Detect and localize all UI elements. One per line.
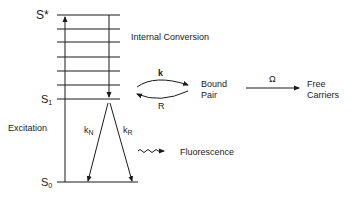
label-r: R [158,101,165,111]
energy-levels [57,15,138,182]
label-k: k [158,68,164,78]
energy-level-diagram: S* S1 S0 Excitation Internal Conversion … [0,0,355,197]
label-fluorescence: Fluorescence [180,147,234,157]
label-bound-pair-line1: Bound [201,79,227,89]
label-bound-pair-line2: Pair [201,90,217,100]
k-forward-arrow [137,80,188,87]
label-s1: S1 [41,93,52,106]
label-internal-conversion: Internal Conversion [131,32,209,42]
label-kr: kR [123,125,133,136]
label-excitation: Excitation [8,123,47,133]
fluorescence-wavy-arrow [138,150,164,153]
label-s0: S0 [41,176,52,189]
label-free-carriers-line1: Free [307,79,326,89]
label-kn: kN [84,125,94,136]
label-free-carriers-line2: Carriers [307,90,340,100]
kr-decay-arrow [110,103,132,181]
kn-decay-arrow [88,103,108,181]
r-reverse-arrow [137,91,188,98]
label-s-star: S* [36,8,49,22]
label-omega: Ω [269,74,276,84]
